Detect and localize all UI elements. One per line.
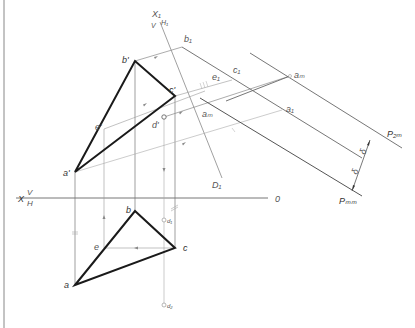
dimension-line [352,140,370,191]
arrow-mark [163,168,166,172]
axis-zero-label: 0 [275,194,280,204]
label-b: b [126,205,131,215]
triangle-abc-frontal [75,61,175,172]
label-d-prime: d' [152,120,159,130]
label-e1: e₁ [212,72,220,82]
label-am-upper: aₘ [294,70,305,80]
arrow-mark [143,103,147,107]
axis-h1-label: H₁ [161,19,169,26]
dimension-delta-lower: δ [349,167,360,176]
label-am-lower: aₘ [202,109,213,119]
axis-h-label: H [27,199,33,208]
transfer-line-c [175,80,232,96]
tick-mark [232,128,235,132]
label-e-prime: e' [95,122,102,132]
point-am [289,75,292,78]
axis-x-label: X [17,194,25,204]
label-c1: c₁ [233,65,241,75]
label-d1: d₁ [167,218,172,224]
axis-d1-label: D₁ [212,180,221,190]
label-b1: b₁ [184,34,192,44]
label-e: e [94,242,99,252]
plane-p2m [250,53,402,148]
dimension-arrow [352,185,355,191]
dimension-arrow [367,140,370,146]
aux-line-am [200,98,362,196]
axis-v-label: V [27,188,33,197]
label-a1-upper: a₁ [286,104,294,114]
arrow-mark [182,142,186,146]
label-c: c [183,243,188,253]
point-d-prime [162,115,166,119]
point-d1 [162,218,166,222]
point-d2 [162,303,166,307]
label-a: a [64,280,69,290]
arrow-mark [154,56,158,59]
plane-p2m-label: P₂ₘ [387,129,402,139]
plane-pmm-label: Pₘₘ [339,196,357,206]
label-a-prime: a' [63,168,70,178]
axis-v-aux-label: V [151,22,157,29]
transfer-line-a [75,110,282,172]
transfer-line-d [164,76,290,117]
arrow-mark [103,215,106,219]
axis-x1-label: X₁ [151,9,161,19]
label-d2: d₂ [167,303,173,309]
tick-mark [171,205,178,211]
geometry-drawing: X V H 0 X₁ V H₁ D₁ δ δ P₂ₘ Pₘₘ [0,0,415,328]
label-b-prime: b' [122,55,129,65]
arrow-mark [134,247,138,250]
label-c-prime: c' [169,85,176,95]
